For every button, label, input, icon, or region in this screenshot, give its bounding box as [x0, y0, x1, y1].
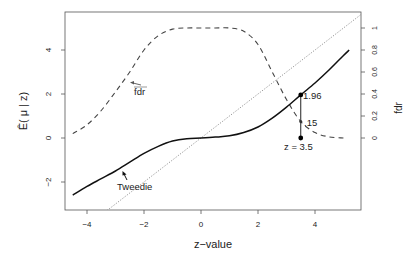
y-right-tick-label: 0.4	[371, 89, 378, 99]
y-right-tick-label: 0.8	[371, 45, 378, 55]
label-z-3.5: z = 3.5	[284, 141, 313, 152]
label-tweedie: Tweedie	[117, 181, 152, 192]
fdr-curve	[73, 28, 344, 138]
y-axis-right: 00.20.40.60.81	[361, 26, 378, 140]
fdr-arrow	[133, 83, 141, 85]
y-tick-label: 0	[44, 135, 53, 140]
y-axis-title-right: fdr	[393, 101, 404, 113]
x-tick-label: 0	[199, 220, 204, 229]
point-fdr-0.15	[299, 120, 302, 123]
y-right-tick-label: 0	[371, 136, 378, 140]
point-z-3.5	[298, 136, 303, 141]
y-tick-label: 2	[44, 91, 53, 96]
y-right-tick-label: 1	[371, 26, 378, 30]
label-1.96: 1.96	[303, 90, 322, 101]
x-axis: −4−2024	[82, 210, 317, 229]
x-tick-label: −2	[139, 220, 149, 229]
fdr-arrowhead-icon	[130, 81, 134, 85]
tweedie-fdr-chart: −4−2024 −2024 00.20.40.60.81 1.96 .15 z …	[0, 0, 413, 260]
plot-frame	[65, 12, 361, 210]
x-tick-label: 4	[313, 220, 318, 229]
x-tick-label: −4	[82, 220, 92, 229]
y-tick-label: 4	[44, 47, 53, 52]
x-tick-label: 2	[256, 220, 261, 229]
y-right-tick-label: 0.6	[371, 67, 378, 77]
label-fdr: fdr	[134, 86, 145, 97]
x-axis-title: z−value	[194, 238, 232, 250]
y-axis-title-left: Ê( μ | z)	[17, 92, 29, 131]
y-tick-label: −2	[44, 177, 53, 187]
tweedie-arrowhead-icon	[123, 171, 127, 176]
y-axis-left: −2024	[44, 47, 65, 186]
y-right-tick-label: 0.2	[371, 111, 378, 121]
label-fdr-0.15: .15	[304, 117, 317, 128]
